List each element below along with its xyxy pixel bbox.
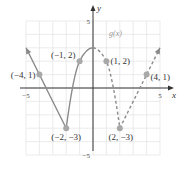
point-label: (4, 1)	[151, 72, 171, 82]
point-label: (2, −3)	[109, 132, 134, 142]
function-label: g(x)	[109, 29, 122, 38]
point-label: (1, 2)	[110, 56, 129, 66]
data-point	[63, 125, 69, 131]
y-axis-arrow-icon	[91, 5, 96, 11]
x-axis-label: x	[171, 90, 176, 100]
point-label: (−2, −3)	[51, 132, 81, 142]
data-point	[36, 72, 42, 78]
y-axis-label: y	[96, 3, 101, 13]
point-label: (−4, 1)	[11, 70, 36, 80]
data-point	[77, 58, 83, 64]
x-tick-label: 5	[158, 92, 162, 100]
function-graph: xy−555−5g(x)(−4, 1)(−1, 2)(1, 2)(4, 1)(−…	[0, 0, 182, 175]
point-label: (−1, 2)	[51, 50, 76, 60]
data-point	[144, 72, 150, 78]
y-tick-label: 5	[87, 18, 91, 26]
x-tick-label: −5	[22, 92, 30, 100]
data-point	[117, 125, 123, 131]
y-tick-label: −5	[83, 152, 91, 160]
data-point	[103, 58, 109, 64]
